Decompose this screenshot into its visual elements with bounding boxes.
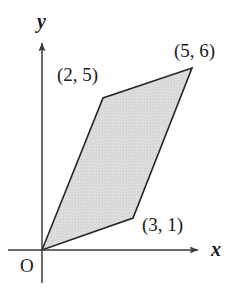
vertex-label-lower-right: (3, 1) [142, 215, 183, 234]
vertex-label-upper-right: (5, 6) [174, 41, 215, 60]
y-axis-label: y [37, 11, 46, 31]
origin-label: O [20, 256, 34, 275]
figure-canvas: y x O (2, 5) (5, 6) (3, 1) [0, 0, 240, 288]
vertex-label-upper-left: (2, 5) [57, 65, 98, 84]
x-axis-label: x [211, 239, 221, 259]
